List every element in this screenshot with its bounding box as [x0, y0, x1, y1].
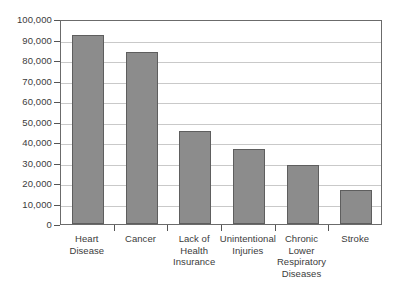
x-axis-label-line: Health: [163, 245, 225, 257]
y-tick-label: 10,000: [0, 200, 52, 210]
bar: [287, 165, 319, 224]
y-tick-label: 0: [0, 220, 52, 230]
x-axis-label: ChronicLowerRespiratoryDiseases: [271, 233, 333, 279]
bar: [179, 131, 211, 224]
x-axis-label-line: Unintentional: [217, 233, 279, 245]
x-axis-label: UnintentionalInjuries: [217, 233, 279, 256]
x-axis-label-line: Chronic: [271, 233, 333, 245]
x-axis-label: HeartDisease: [56, 233, 118, 256]
x-axis-label-line: Disease: [56, 245, 118, 257]
y-tick-label: 50,000: [0, 118, 52, 128]
x-axis-label-line: Injuries: [217, 245, 279, 257]
x-axis-label-line: Cancer: [110, 233, 172, 245]
x-tick-mark: [275, 225, 276, 231]
y-tick-label: 90,000: [0, 36, 52, 46]
y-axis: 010,00020,00030,00040,00050,00060,00070,…: [0, 20, 52, 225]
y-tick-label: 80,000: [0, 56, 52, 66]
x-axis-label: Lack ofHealthInsurance: [163, 233, 225, 268]
y-tick-mark: [54, 82, 60, 83]
bar: [126, 52, 158, 224]
y-tick-mark: [54, 102, 60, 103]
x-axis-labels: HeartDiseaseCancerLack ofHealthInsurance…: [60, 233, 382, 289]
x-axis-label: Cancer: [110, 233, 172, 245]
x-axis-label-line: Stroke: [324, 233, 386, 245]
y-tick-mark: [54, 225, 60, 226]
bar: [72, 35, 104, 224]
y-tick-mark: [54, 164, 60, 165]
y-tick-label: 40,000: [0, 138, 52, 148]
y-tick-label: 70,000: [0, 77, 52, 87]
y-tick-mark: [54, 61, 60, 62]
x-tick-mark: [114, 225, 115, 231]
bar: [233, 149, 265, 224]
y-tick-mark: [54, 123, 60, 124]
x-axis-label-line: Respiratory: [271, 256, 333, 268]
y-tick-label: 100,000: [0, 15, 52, 25]
plot-area: [60, 20, 382, 225]
x-tick-mark: [167, 225, 168, 231]
x-axis-label-line: Lack of: [163, 233, 225, 245]
bars: [61, 21, 381, 224]
y-tick-mark: [54, 205, 60, 206]
bar-chart: 010,00020,00030,00040,00050,00060,00070,…: [0, 0, 402, 289]
y-tick-mark: [54, 143, 60, 144]
x-axis-label-line: Heart: [56, 233, 118, 245]
x-tick-mark: [328, 225, 329, 231]
x-axis-label-line: Insurance: [163, 256, 225, 268]
x-tick-mark: [221, 225, 222, 231]
y-tick-mark: [54, 20, 60, 21]
y-tick-label: 20,000: [0, 179, 52, 189]
y-tick-label: 30,000: [0, 159, 52, 169]
y-tick-label: 60,000: [0, 97, 52, 107]
y-tick-mark: [54, 41, 60, 42]
y-tick-mark: [54, 184, 60, 185]
x-axis-label: Stroke: [324, 233, 386, 245]
x-axis-label-line: Lower: [271, 245, 333, 257]
bar: [340, 190, 372, 224]
x-axis-label-line: Diseases: [271, 268, 333, 280]
